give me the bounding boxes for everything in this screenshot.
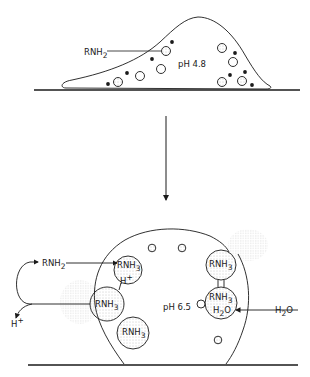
water-out-label: H2O (275, 305, 293, 318)
proton-out-label: H+ (11, 316, 24, 329)
top-cell-panel: RNH2 pH 4.8 (34, 17, 300, 90)
amine-label-top: RNH2 (84, 47, 108, 60)
lysosomotropic-diagram: RNH2 pH 4.8 (0, 0, 310, 377)
ph-label-bottom: pH 6.5 (163, 302, 191, 312)
amine-label-bottom: RNH2 (42, 258, 66, 271)
stipple-cloud-right (228, 229, 268, 261)
bottom-cell-panel: RNH2 H+ H+ RNH3 RNH3 RNH3 RNH3 RNH3 H2O … (11, 229, 298, 365)
ph-label-top: pH 4.8 (178, 59, 206, 69)
